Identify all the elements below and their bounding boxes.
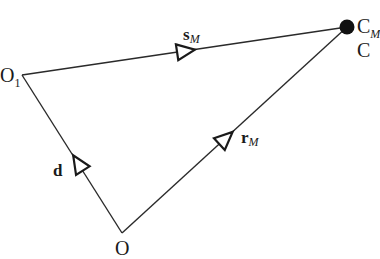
point-o1-subscript: 1 — [14, 76, 20, 90]
vector-d-label: d — [53, 162, 62, 179]
point-c-dot-icon — [340, 20, 355, 35]
point-o1-letter: O — [0, 64, 14, 86]
point-o1-label: O1 — [0, 65, 20, 89]
vector-r-label: rM — [241, 129, 259, 148]
vector-s-name: s — [183, 25, 190, 44]
vector-s-label: sM — [183, 26, 200, 45]
point-c-label: C — [357, 40, 370, 60]
vector-s-subscript: M — [190, 32, 200, 46]
vector-r-name: r — [241, 128, 249, 147]
point-cm-subscript: M — [370, 27, 380, 41]
vector-r-subscript: M — [249, 135, 259, 149]
point-cm-letter: C — [357, 15, 370, 37]
vector-d-name: d — [53, 161, 62, 180]
point-c-letter: C — [357, 39, 370, 61]
arrow-d-icon — [66, 151, 89, 175]
vector-r-line — [122, 27, 347, 233]
point-cm-label: CM — [357, 16, 380, 40]
point-o-letter: O — [115, 237, 129, 259]
point-o-label: O — [115, 238, 129, 258]
